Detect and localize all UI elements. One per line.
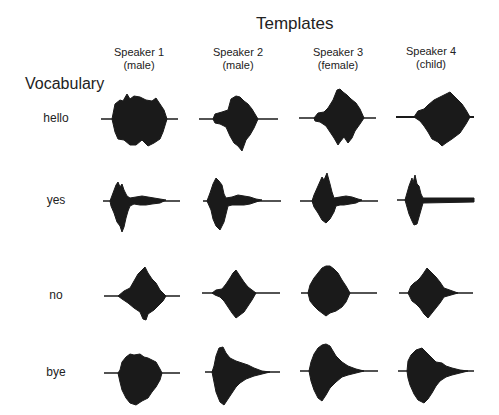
waveform-no-speaker-2 [202, 270, 280, 318]
waveform-yes-speaker-1 [103, 182, 180, 232]
waveform-hello-speaker-2 [199, 96, 278, 151]
waveform-bye-speaker-4 [398, 348, 474, 403]
waveform-hello-speaker-1 [101, 94, 178, 146]
waveform-hello-speaker-4 [396, 92, 474, 146]
waveform-yes-speaker-3 [300, 173, 378, 223]
waveform-yes-speaker-2 [203, 178, 281, 230]
waveform-no-speaker-3 [301, 266, 377, 316]
waveform-yes-speaker-4 [397, 175, 474, 225]
waveform-bye-speaker-2 [205, 347, 280, 405]
waveform-bye-speaker-1 [104, 354, 180, 405]
waveform-bye-speaker-3 [300, 344, 378, 401]
waveform-no-speaker-4 [399, 268, 473, 318]
waveform-grid [0, 0, 499, 415]
waveform-no-speaker-1 [104, 267, 180, 320]
waveform-hello-speaker-3 [299, 89, 376, 145]
